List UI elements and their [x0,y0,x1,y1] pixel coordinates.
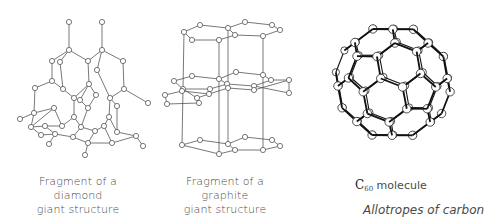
atom [171,78,176,83]
bond [200,140,228,144]
atom [207,86,212,91]
atom [242,19,247,24]
c60-caption-text: molecule [373,179,427,192]
c60-panel: C60 molecule [320,0,471,223]
atom [377,74,385,82]
atom [162,92,167,97]
bond [235,35,263,36]
atom [179,142,184,147]
atom [206,91,211,96]
graphite-caption-line-3: giant structure [175,203,275,217]
atom [269,22,274,27]
atom [196,100,201,105]
atom [225,141,230,146]
atom [233,69,238,74]
bond [227,84,254,86]
bond [254,86,289,93]
atom [260,147,265,152]
atom [179,88,184,93]
atom [268,77,273,82]
graphite-caption-line-2: graphite [175,189,275,203]
atom [260,33,265,38]
bond [182,91,209,94]
bond [192,76,219,79]
atom [242,134,247,139]
bond [182,145,219,154]
graphite-panel: Fragment of a graphite giant structure [0,0,310,223]
atom [286,90,291,95]
c60-molecule-diagram [320,0,471,160]
atom [398,83,406,91]
atom [232,147,237,152]
graphite-caption: Fragment of a graphite giant structure [175,175,275,217]
graphite-structure-diagram [0,0,310,170]
atom [189,37,194,42]
atom [216,37,221,42]
figure-title: Allotropes of carbon [363,203,484,217]
graphite-caption-line-1: Fragment of a [175,175,275,189]
atom [189,73,194,78]
atom [225,85,230,90]
atom [232,32,237,37]
atom [216,151,221,156]
bond [200,25,228,28]
atom [197,22,202,27]
atom [225,25,230,30]
atom [251,87,256,92]
c60-formula-element: C [355,178,364,192]
atom [277,27,282,32]
atom [164,101,169,106]
c60-formula-subscript: 60 [364,185,373,193]
bond [228,88,254,90]
atom [277,143,282,148]
atom [181,29,186,34]
atom [197,137,202,142]
atom [260,72,265,77]
atom [269,137,274,142]
c60-caption: C60 molecule [355,178,427,193]
atom [216,76,221,81]
bond [245,137,272,140]
bond [236,72,263,75]
bond [245,22,272,25]
atom [286,77,291,82]
atom [194,95,199,100]
